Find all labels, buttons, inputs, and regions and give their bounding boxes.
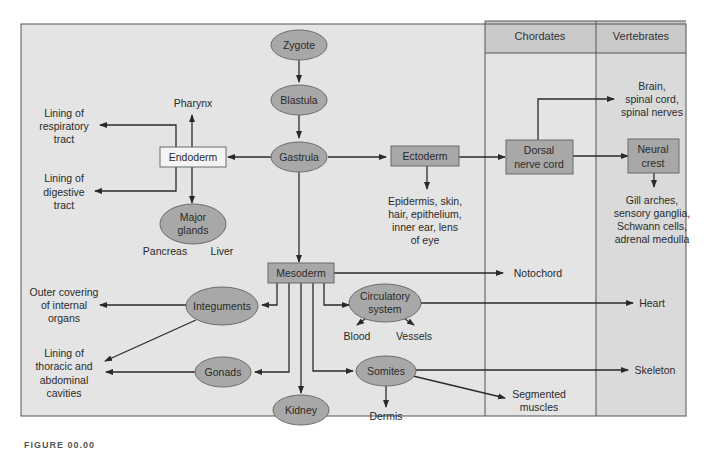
svg-text:Ectoderm: Ectoderm xyxy=(403,150,448,162)
svg-text:spinal nerves: spinal nerves xyxy=(621,106,683,118)
svg-text:of internal: of internal xyxy=(41,299,87,311)
svg-text:adrenal medulla: adrenal medulla xyxy=(615,233,690,245)
svg-text:nerve cord: nerve cord xyxy=(514,158,564,170)
figure-caption: FIGURE 00.00 xyxy=(24,440,95,450)
svg-text:Schwann cells,: Schwann cells, xyxy=(617,220,687,232)
label-blood: Blood xyxy=(344,330,371,342)
svg-text:Gonads: Gonads xyxy=(205,366,242,378)
label-heart: Heart xyxy=(639,297,665,309)
node-gonads: Gonads xyxy=(195,357,251,387)
svg-text:Kidney: Kidney xyxy=(285,404,318,416)
label-segmented-muscles: Segmented muscles xyxy=(512,388,566,413)
svg-text:Gastrula: Gastrula xyxy=(279,151,319,163)
svg-text:digestive: digestive xyxy=(43,186,85,198)
label-notochord: Notochord xyxy=(514,267,563,279)
svg-text:Major: Major xyxy=(180,211,207,223)
svg-text:cavities: cavities xyxy=(46,387,81,399)
label-pharynx: Pharynx xyxy=(174,97,213,109)
node-gastrula: Gastrula xyxy=(271,142,327,172)
germ-layer-diagram: Chordates Vertebrates xyxy=(0,0,726,451)
label-skeleton: Skeleton xyxy=(635,364,676,376)
svg-text:Dorsal: Dorsal xyxy=(524,144,554,156)
node-circulatory-system: Circulatory system xyxy=(349,284,421,322)
svg-text:crest: crest xyxy=(642,157,665,169)
node-neural-crest: Neural crest xyxy=(628,139,679,173)
node-kidney: Kidney xyxy=(273,395,329,425)
node-endoderm: Endoderm xyxy=(160,147,226,167)
svg-text:sensory ganglia,: sensory ganglia, xyxy=(614,207,690,219)
svg-text:thoracic and: thoracic and xyxy=(35,360,92,372)
svg-text:Neural: Neural xyxy=(638,143,669,155)
svg-text:tract: tract xyxy=(54,199,75,211)
svg-text:Segmented: Segmented xyxy=(512,388,566,400)
label-liver: Liver xyxy=(211,245,234,257)
column-header-vertebrates: Vertebrates xyxy=(613,30,670,42)
node-ectoderm: Ectoderm xyxy=(391,146,459,166)
svg-text:muscles: muscles xyxy=(520,401,559,413)
svg-text:system: system xyxy=(368,303,402,315)
svg-text:Somites: Somites xyxy=(367,365,405,377)
svg-text:Brain,: Brain, xyxy=(638,80,665,92)
svg-text:Zygote: Zygote xyxy=(283,39,315,51)
svg-text:tract: tract xyxy=(54,133,75,145)
label-dermis: Dermis xyxy=(369,410,402,422)
node-integuments: Integuments xyxy=(186,287,258,325)
svg-text:Circulatory: Circulatory xyxy=(360,290,411,302)
svg-text:abdominal: abdominal xyxy=(40,374,88,386)
svg-text:Lining of: Lining of xyxy=(44,172,84,184)
svg-text:Lining of: Lining of xyxy=(44,107,84,119)
svg-text:spinal cord,: spinal cord, xyxy=(625,93,679,105)
column-header-chordates: Chordates xyxy=(515,30,566,42)
label-pancreas: Pancreas xyxy=(143,245,187,257)
svg-text:hair, epithelium,: hair, epithelium, xyxy=(388,208,462,220)
svg-text:Lining of: Lining of xyxy=(44,347,84,359)
node-somites: Somites xyxy=(356,356,416,386)
node-major-glands: Major glands xyxy=(160,204,226,244)
svg-text:glands: glands xyxy=(178,224,209,236)
svg-text:Mesoderm: Mesoderm xyxy=(276,267,326,279)
svg-text:Outer covering: Outer covering xyxy=(30,286,99,298)
svg-text:organs: organs xyxy=(48,312,80,324)
label-vessels: Vessels xyxy=(396,330,432,342)
node-zygote: Zygote xyxy=(271,30,327,60)
svg-text:Blastula: Blastula xyxy=(280,94,318,106)
node-blastula: Blastula xyxy=(271,85,327,115)
svg-text:inner ear, lens: inner ear, lens xyxy=(392,221,458,233)
node-dorsal-nerve-cord: Dorsal nerve cord xyxy=(506,140,573,174)
svg-text:Endoderm: Endoderm xyxy=(169,151,218,163)
svg-text:Gill arches,: Gill arches, xyxy=(626,194,679,206)
svg-text:Epidermis, skin,: Epidermis, skin, xyxy=(388,195,462,207)
svg-text:respiratory: respiratory xyxy=(39,120,89,132)
node-mesoderm: Mesoderm xyxy=(268,263,334,283)
svg-text:of eye: of eye xyxy=(411,234,440,246)
svg-text:Integuments: Integuments xyxy=(193,300,251,312)
